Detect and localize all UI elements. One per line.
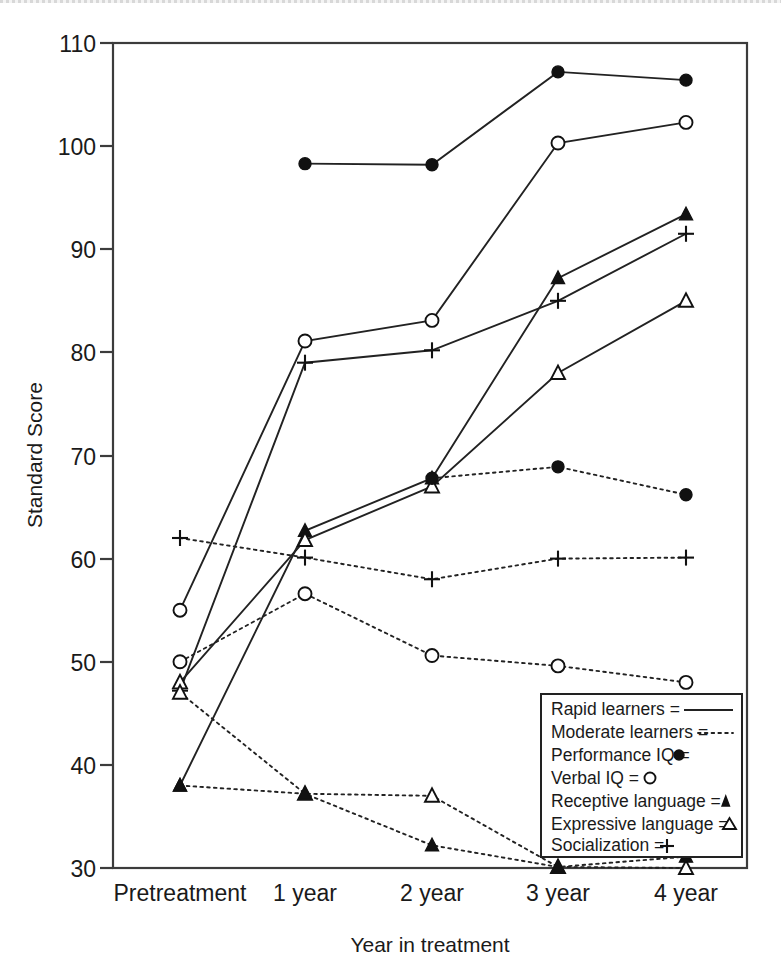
legend-label-performance-iq: Performance IQ = bbox=[551, 745, 690, 765]
marker-open-circle bbox=[426, 314, 439, 327]
y-tick-label: 70 bbox=[70, 444, 96, 470]
legend: Rapid learners = Moderate learners = Per… bbox=[541, 694, 742, 857]
marker-plus bbox=[172, 530, 188, 546]
legend-label-moderate-learners: Moderate learners = bbox=[551, 722, 708, 742]
marker-plus bbox=[297, 550, 313, 566]
y-tick-label: 90 bbox=[70, 237, 96, 263]
marker-open-triangle bbox=[425, 788, 439, 802]
marker-filled-circle bbox=[299, 158, 311, 170]
marker-plus bbox=[550, 293, 566, 309]
marker-filled-triangle bbox=[552, 271, 565, 284]
marker-open-triangle bbox=[679, 293, 693, 307]
marker-open-circle bbox=[299, 335, 312, 348]
marker-open-circle bbox=[174, 604, 187, 617]
legend-label-verbal-iq: Verbal IQ = bbox=[551, 768, 639, 788]
page-edge-artifact bbox=[0, 0, 781, 3]
y-tick-label: 110 bbox=[59, 31, 96, 57]
legend-sample-filled-circle-icon bbox=[674, 750, 684, 760]
series-performance-iq-moderate-learners bbox=[426, 461, 692, 501]
marker-filled-circle bbox=[552, 66, 564, 78]
x-axis-title: Year in treatment bbox=[350, 933, 509, 956]
y-axis-tick-labels: 110 100 90 80 70 60 50 40 30 bbox=[58, 31, 96, 882]
series-path bbox=[180, 234, 686, 691]
marker-open-circle bbox=[174, 655, 187, 668]
y-tick-label: 100 bbox=[58, 134, 96, 160]
y-tick-label: 50 bbox=[70, 650, 96, 676]
legend-label-receptive-language: Receptive language = bbox=[551, 791, 721, 811]
legend-sample-open-circle-icon bbox=[645, 773, 656, 784]
marker-filled-circle bbox=[426, 159, 438, 171]
marker-plus bbox=[297, 355, 313, 371]
figure-root: 110 100 90 80 70 60 50 40 30 Standard Sc… bbox=[0, 0, 781, 978]
series-performance-iq-rapid-learners bbox=[299, 66, 692, 171]
legend-label-socialization: Socialization = bbox=[551, 835, 664, 855]
marker-open-circle bbox=[680, 676, 693, 689]
marker-filled-circle bbox=[426, 472, 438, 484]
series-path bbox=[180, 594, 686, 683]
series-socialization-rapid-learners bbox=[172, 226, 694, 699]
marker-open-circle bbox=[299, 587, 312, 600]
marker-filled-triangle bbox=[680, 207, 693, 220]
x-axis-tick-labels: Pretreatment 1 year 2 year 3 year 4 year bbox=[114, 880, 719, 906]
series-socialization-moderate-learners bbox=[172, 530, 694, 587]
marker-plus bbox=[678, 550, 694, 566]
x-tick-label: 4 year bbox=[654, 880, 718, 906]
marker-plus bbox=[424, 342, 440, 358]
marker-filled-circle bbox=[552, 461, 564, 473]
x-tick-label: 2 year bbox=[400, 880, 464, 906]
marker-open-circle bbox=[552, 137, 565, 150]
marker-plus bbox=[678, 226, 694, 242]
x-tick-label: 1 year bbox=[273, 880, 337, 906]
y-tick-label: 80 bbox=[70, 340, 96, 366]
marker-open-circle bbox=[680, 116, 693, 129]
marker-filled-triangle bbox=[426, 838, 439, 851]
y-tick-label: 40 bbox=[70, 753, 96, 779]
marker-plus bbox=[550, 551, 566, 567]
marker-open-circle bbox=[552, 659, 565, 672]
marker-open-circle bbox=[426, 649, 439, 662]
x-tick-label: 3 year bbox=[526, 880, 590, 906]
y-axis-ticks bbox=[100, 43, 113, 868]
marker-plus bbox=[424, 571, 440, 587]
marker-filled-triangle bbox=[174, 779, 187, 792]
y-tick-label: 30 bbox=[70, 856, 96, 882]
y-axis-title: Standard Score bbox=[23, 382, 46, 528]
marker-filled-circle bbox=[680, 74, 692, 86]
x-tick-label: Pretreatment bbox=[114, 880, 248, 906]
legend-label-rapid-learners: Rapid learners = bbox=[551, 699, 680, 719]
marker-filled-circle bbox=[680, 489, 692, 501]
series-path bbox=[305, 72, 686, 165]
legend-label-expressive-language: Expressive language = bbox=[551, 814, 729, 834]
series-verbal-iq-rapid-learners bbox=[174, 116, 693, 617]
series-path bbox=[180, 122, 686, 610]
marker-open-triangle bbox=[551, 366, 565, 380]
line-chart: 110 100 90 80 70 60 50 40 30 Standard Sc… bbox=[0, 0, 781, 978]
y-tick-label: 60 bbox=[70, 547, 96, 573]
